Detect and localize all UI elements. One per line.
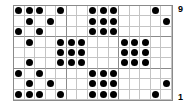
grid-cell[interactable] — [109, 48, 120, 58]
grid-cell[interactable] — [46, 69, 57, 79]
grid-cell[interactable] — [151, 16, 162, 26]
grid-cell[interactable] — [77, 6, 88, 16]
grid-cell[interactable] — [14, 27, 25, 37]
grid-cell[interactable] — [67, 79, 78, 89]
grid-cell[interactable] — [109, 79, 120, 89]
grid-cell[interactable] — [56, 90, 67, 100]
grid-cell[interactable] — [109, 58, 120, 68]
grid-cell[interactable] — [35, 79, 46, 89]
grid-cell[interactable] — [119, 37, 130, 47]
grid-cell[interactable] — [35, 58, 46, 68]
grid-cell[interactable] — [14, 79, 25, 89]
grid-cell[interactable] — [67, 90, 78, 100]
grid-cell[interactable] — [151, 6, 162, 16]
grid-cell[interactable] — [14, 58, 25, 68]
grid-cell[interactable] — [140, 69, 151, 79]
grid-cell[interactable] — [140, 6, 151, 16]
grid-cell[interactable] — [140, 37, 151, 47]
grid-cell[interactable] — [161, 79, 172, 89]
grid-cell[interactable] — [67, 58, 78, 68]
grid-cell[interactable] — [77, 27, 88, 37]
grid-cell[interactable] — [67, 16, 78, 26]
grid-cell[interactable] — [14, 6, 25, 16]
grid-cell[interactable] — [151, 69, 162, 79]
grid-cell[interactable] — [140, 79, 151, 89]
grid-cell[interactable] — [77, 16, 88, 26]
grid-cell[interactable] — [35, 16, 46, 26]
grid-cell[interactable] — [35, 90, 46, 100]
grid-cell[interactable] — [25, 69, 36, 79]
grid-cell[interactable] — [77, 48, 88, 58]
grid-cell[interactable] — [130, 69, 141, 79]
grid-cell[interactable] — [130, 27, 141, 37]
grid-cell[interactable] — [98, 48, 109, 58]
grid-cell[interactable] — [119, 48, 130, 58]
grid-cell[interactable] — [88, 48, 99, 58]
grid-cell[interactable] — [161, 6, 172, 16]
grid-cell[interactable] — [46, 79, 57, 89]
grid-cell[interactable] — [25, 48, 36, 58]
grid-cell[interactable] — [130, 6, 141, 16]
grid-cell[interactable] — [140, 48, 151, 58]
grid-cell[interactable] — [151, 58, 162, 68]
grid-cell[interactable] — [35, 48, 46, 58]
grid-cell[interactable] — [161, 37, 172, 47]
grid-cell[interactable] — [25, 16, 36, 26]
grid-cell[interactable] — [46, 6, 57, 16]
grid-cell[interactable] — [140, 58, 151, 68]
grid-cell[interactable] — [130, 37, 141, 47]
grid-cell[interactable] — [56, 16, 67, 26]
grid-cell[interactable] — [109, 27, 120, 37]
grid-cell[interactable] — [46, 16, 57, 26]
grid-cell[interactable] — [25, 79, 36, 89]
grid-cell[interactable] — [77, 69, 88, 79]
grid-cell[interactable] — [35, 27, 46, 37]
grid-cell[interactable] — [119, 6, 130, 16]
grid-cell[interactable] — [77, 37, 88, 47]
grid-cell[interactable] — [140, 27, 151, 37]
grid-cell[interactable] — [25, 37, 36, 47]
grid-cell[interactable] — [130, 48, 141, 58]
grid-cell[interactable] — [98, 58, 109, 68]
grid-cell[interactable] — [119, 69, 130, 79]
grid-cell[interactable] — [88, 27, 99, 37]
grid-cell[interactable] — [109, 16, 120, 26]
grid-cell[interactable] — [119, 16, 130, 26]
grid-cell[interactable] — [14, 48, 25, 58]
grid-cell[interactable] — [56, 27, 67, 37]
grid-cell[interactable] — [161, 58, 172, 68]
grid-cell[interactable] — [98, 6, 109, 16]
grid-cell[interactable] — [109, 37, 120, 47]
grid-cell[interactable] — [56, 69, 67, 79]
grid-cell[interactable] — [88, 6, 99, 16]
grid-cell[interactable] — [98, 69, 109, 79]
grid-cell[interactable] — [151, 90, 162, 100]
grid-cell[interactable] — [67, 6, 78, 16]
grid-cell[interactable] — [140, 16, 151, 26]
grid-cell[interactable] — [56, 58, 67, 68]
grid-cell[interactable] — [77, 79, 88, 89]
grid-cell[interactable] — [88, 69, 99, 79]
grid-cell[interactable] — [161, 90, 172, 100]
grid-cell[interactable] — [88, 16, 99, 26]
grid-cell[interactable] — [56, 6, 67, 16]
grid-cell[interactable] — [14, 90, 25, 100]
grid-cell[interactable] — [67, 37, 78, 47]
grid-cell[interactable] — [67, 69, 78, 79]
grid-cell[interactable] — [130, 16, 141, 26]
grid-cell[interactable] — [56, 48, 67, 58]
grid-cell[interactable] — [56, 79, 67, 89]
grid-cell[interactable] — [119, 58, 130, 68]
grid-cell[interactable] — [98, 37, 109, 47]
grid-cell[interactable] — [25, 6, 36, 16]
grid-cell[interactable] — [151, 37, 162, 47]
grid-cell[interactable] — [88, 58, 99, 68]
grid-cell[interactable] — [46, 27, 57, 37]
grid-cell[interactable] — [88, 37, 99, 47]
grid-cell[interactable] — [98, 16, 109, 26]
grid-cell[interactable] — [88, 90, 99, 100]
grid-cell[interactable] — [77, 58, 88, 68]
grid-cell[interactable] — [109, 69, 120, 79]
grid-cell[interactable] — [46, 90, 57, 100]
grid-cell[interactable] — [98, 27, 109, 37]
